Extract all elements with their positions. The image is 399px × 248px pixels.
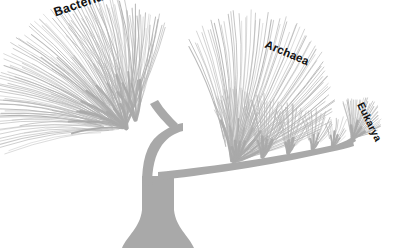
tree-diagram-svg (0, 0, 399, 248)
tree-inner-branch (351, 126, 352, 137)
phylogenetic-tree-figure: Bacteria Archaea Eukarya (0, 0, 399, 248)
